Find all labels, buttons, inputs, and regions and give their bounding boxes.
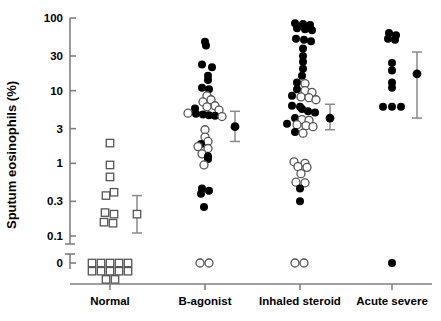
data-point-open-square	[88, 268, 95, 275]
data-point-open-square	[110, 210, 117, 217]
data-point-open-circle	[309, 123, 317, 131]
data-point-filled-circle	[388, 259, 396, 267]
y-tick-label: 10	[50, 85, 63, 97]
data-point-filled-circle	[197, 190, 205, 198]
data-point-filled-circle	[301, 25, 309, 33]
data-point-open-square	[106, 268, 113, 275]
y-tick-group: 1003010310.30.10	[44, 12, 76, 269]
summary-marker-filled-circle	[326, 114, 335, 123]
summary-markers-group	[132, 52, 422, 233]
data-point-filled-circle	[291, 128, 299, 136]
data-point-open-square	[88, 259, 95, 266]
data-point-open-square	[109, 220, 116, 227]
y-tick-label: 1	[57, 157, 64, 169]
data-point-open-square	[110, 189, 117, 196]
data-point-filled-circle	[293, 24, 301, 32]
data-point-filled-circle	[198, 60, 206, 68]
data-point-filled-circle	[311, 109, 319, 117]
data-point-filled-circle	[296, 185, 304, 193]
x-category-label: Inhaled steroid	[259, 295, 341, 307]
data-point-filled-circle	[300, 36, 308, 44]
data-point-open-square	[97, 259, 104, 266]
data-point-open-circle	[200, 161, 208, 169]
y-tick-label: 0	[57, 257, 63, 269]
data-point-filled-circle	[388, 103, 396, 111]
y-tick-label: 0.3	[47, 195, 63, 207]
data-point-open-circle	[297, 170, 305, 178]
data-point-open-circle	[218, 113, 226, 121]
data-point-open-circle	[203, 103, 211, 111]
data-point-open-square	[115, 268, 122, 275]
data-point-open-circle	[303, 163, 311, 171]
data-point-filled-circle	[202, 41, 210, 49]
data-point-filled-circle	[397, 103, 405, 111]
data-point-filled-circle	[379, 103, 387, 111]
data-point-filled-circle	[205, 187, 213, 195]
data-point-filled-circle	[304, 107, 312, 115]
data-point-filled-circle	[288, 92, 296, 100]
summary-marker-filled-circle	[413, 70, 422, 79]
data-point-open-square	[100, 218, 107, 225]
summary-marker-filled-circle	[231, 122, 240, 131]
data-point-open-circle	[300, 259, 308, 267]
data-point-open-square	[97, 268, 104, 275]
data-point-filled-circle	[283, 120, 291, 128]
x-category-label: Acute severe	[356, 295, 428, 307]
y-tick-label: 100	[44, 12, 63, 24]
data-point-open-circle	[312, 96, 320, 104]
data-point-filled-circle	[198, 84, 206, 92]
x-category-label: B-agonist	[178, 295, 231, 307]
data-point-filled-circle	[204, 76, 212, 84]
data-point-filled-circle	[308, 26, 316, 34]
data-point-filled-circle	[299, 58, 307, 66]
data-point-open-circle	[205, 259, 213, 267]
data-point-filled-circle	[296, 197, 304, 205]
x-category-labels: NormalB-agonistInhaled steroidAcute seve…	[90, 295, 428, 307]
data-point-filled-circle	[288, 102, 296, 110]
data-point-filled-circle	[384, 35, 392, 43]
y-axis-label: Sputum eosinophils (%)	[4, 81, 19, 229]
data-point-filled-circle	[388, 59, 396, 67]
x-category-label: Normal	[90, 295, 130, 307]
data-point-open-square	[111, 276, 118, 283]
data-point-open-square	[101, 209, 108, 216]
data-point-filled-circle	[388, 84, 396, 92]
data-point-open-square	[106, 259, 113, 266]
data-point-filled-circle	[292, 35, 300, 43]
data-point-filled-circle	[307, 37, 315, 45]
axes	[65, 18, 432, 284]
data-point-open-square	[106, 173, 113, 180]
data-point-open-circle	[297, 93, 305, 101]
x-tick-group	[110, 284, 392, 290]
data-point-filled-circle	[298, 72, 306, 80]
data-points-group	[88, 19, 405, 283]
data-point-filled-circle	[388, 66, 396, 74]
scatter-plot: Sputum eosinophils (%) 1003010310.30.10 …	[0, 0, 441, 321]
y-tick-label: 30	[50, 50, 63, 62]
data-point-open-circle	[291, 259, 299, 267]
data-point-filled-circle	[192, 110, 200, 118]
data-point-filled-circle	[293, 85, 301, 93]
y-axis-label-text: Sputum eosinophils (%)	[4, 81, 19, 229]
chart-container: Sputum eosinophils (%) 1003010310.30.10 …	[0, 0, 441, 321]
data-point-open-square	[102, 276, 109, 283]
data-point-open-square	[115, 259, 122, 266]
data-point-open-square	[106, 139, 113, 146]
data-point-filled-circle	[200, 203, 208, 211]
y-tick-label: 0.1	[47, 230, 64, 242]
y-tick-label: 3	[57, 123, 63, 135]
data-point-filled-circle	[208, 63, 216, 71]
data-point-open-circle	[293, 121, 301, 129]
data-point-open-square	[124, 259, 131, 266]
data-point-open-circle	[184, 109, 192, 117]
summary-marker-open-square	[133, 210, 140, 217]
data-point-open-square	[106, 161, 113, 168]
data-point-open-square	[102, 192, 109, 199]
data-point-filled-circle	[299, 65, 307, 73]
data-point-open-square	[124, 268, 131, 275]
data-point-filled-circle	[391, 36, 399, 44]
data-point-open-circle	[196, 259, 204, 267]
data-point-open-circle	[299, 129, 307, 137]
data-point-filled-circle	[299, 45, 307, 53]
